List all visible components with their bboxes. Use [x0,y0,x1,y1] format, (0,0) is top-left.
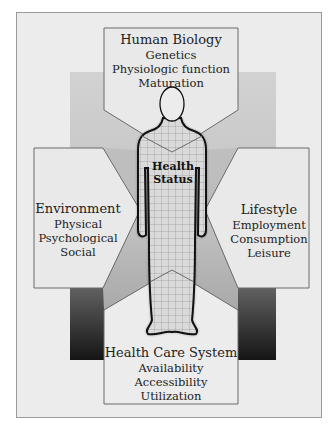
lifestyle-item: Consumption [226,232,312,246]
environment-title: Environment [30,201,126,217]
lifestyle-item: Employment [226,218,312,232]
figure-head [160,87,184,121]
human-biology-item: Maturation [104,76,238,90]
health-care-system-title: Health Care System [104,345,238,361]
health-status-label: Health Status [145,160,201,186]
lifestyle-label: Lifestyle Employment Consumption Leisure [226,202,312,260]
human-biology-title: Human Biology [104,32,238,48]
health-care-system-item: Availability [104,361,238,375]
environment-item: Social [30,245,126,259]
human-biology-item: Genetics [104,48,238,62]
environment-item: Physical [30,217,126,231]
lifestyle-item: Leisure [226,246,312,260]
health-status-line2: Status [145,173,201,186]
human-biology-label: Human Biology Genetics Physiologic funct… [104,32,238,90]
environment-label: Environment Physical Psychological Socia… [30,201,126,259]
lifestyle-title: Lifestyle [226,202,312,218]
health-care-system-item: Utilization [104,389,238,403]
health-care-system-item: Accessibility [104,375,238,389]
health-status-line1: Health [145,160,201,173]
human-biology-item: Physiologic function [104,62,238,76]
environment-item: Psychological [30,231,126,245]
health-care-system-label: Health Care System Availability Accessib… [104,345,238,403]
